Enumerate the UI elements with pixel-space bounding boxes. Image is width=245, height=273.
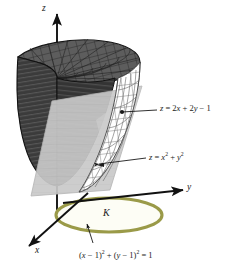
para-eq-equals: = [152,152,161,162]
plane-eq-equals: = [163,103,172,113]
disk-region-label: K [103,208,110,218]
math-figure: z y x K z = 2x + 2y − 1 z = x2 + y2 (x −… [0,0,245,273]
disk-equation-label: (x − 1)2 + (y − 1)2 = 1 [79,250,153,259]
y-axis-label: y [187,183,191,193]
paraboloid-equation-label: z = x2 + y2 [149,152,184,161]
para-eq-exp2: 2 [181,151,184,157]
para-eq-plus: + [168,152,177,162]
z-axis-label: z [42,4,46,14]
x-axis-label: x [35,246,39,256]
disk-eq-term2: − 1) [120,250,136,260]
disk-eq-rhs: = 1 [139,250,152,260]
figure-canvas [0,0,245,273]
disk-eq-plus: + ( [105,250,117,260]
disk-eq-term1: − 1) [86,250,102,260]
plane-equation-label: z = 2x + 2y − 1 [160,104,211,113]
plane-eq-const: − 1 [197,103,210,113]
